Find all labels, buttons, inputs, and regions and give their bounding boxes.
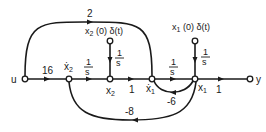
- node-y: [247, 76, 253, 82]
- svg-text:1: 1: [117, 48, 122, 58]
- gain-x1dot-x1: 1 s: [169, 57, 178, 77]
- svg-text:s: s: [116, 58, 121, 68]
- node-x2dot: [66, 76, 72, 82]
- node-x1: [192, 76, 198, 82]
- svg-text:s: s: [202, 57, 207, 67]
- svg-text:s: s: [170, 67, 175, 77]
- label-x2: x2: [106, 85, 115, 97]
- label-x1init: x1 (0) δ(t): [172, 22, 210, 33]
- gain-2: 2: [87, 8, 93, 19]
- arrow-icon: [128, 77, 134, 82]
- gain-x2dot-x2: 1 s: [84, 57, 93, 77]
- arrow-icon: [170, 90, 176, 95]
- arrow-icon: [218, 77, 224, 82]
- label-y: y: [256, 74, 261, 85]
- arrow-icon: [86, 77, 92, 82]
- gain-x2-x1dot: 1: [129, 84, 135, 95]
- label-x2dot: ẋ2: [64, 61, 73, 73]
- label-x1: x1: [198, 82, 207, 94]
- label-x2init: x2 (0) δ(t): [85, 26, 123, 37]
- node-x1dot: [149, 76, 155, 82]
- forward-path: [28, 77, 247, 82]
- svg-text:1: 1: [171, 57, 176, 67]
- gain-x2init-x2: 1 s: [115, 48, 124, 68]
- node-x2init: [107, 38, 113, 44]
- gain-x1init-x1: 1 s: [201, 47, 210, 67]
- label-x1dot: ẋ1: [146, 83, 155, 95]
- node-x2: [107, 76, 113, 82]
- svg-text:1: 1: [203, 47, 208, 57]
- arrow-icon: [108, 57, 113, 63]
- arrow-icon: [132, 118, 138, 123]
- arrow-icon: [44, 77, 50, 82]
- gain-neg6: -6: [167, 96, 176, 107]
- gain-x1-y: 1: [216, 84, 222, 95]
- node-x1init: [192, 38, 198, 44]
- node-u: [22, 76, 28, 82]
- gain-neg8: -8: [125, 106, 134, 117]
- gain-16: 16: [42, 65, 54, 76]
- svg-text:1: 1: [86, 57, 91, 67]
- arrow-icon: [170, 77, 176, 82]
- svg-text:s: s: [85, 67, 90, 77]
- signal-flow-graph: u ẋ2 x2 ẋ1 x1 y x2 (0) δ(t) x1 (0) δ(t…: [0, 0, 266, 132]
- label-u: u: [11, 74, 17, 85]
- arrow-icon: [193, 57, 198, 63]
- edge-x1-x1dot: [154, 81, 193, 92]
- arrow-icon: [87, 20, 93, 25]
